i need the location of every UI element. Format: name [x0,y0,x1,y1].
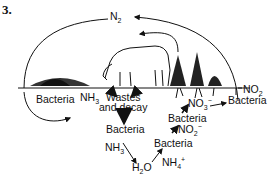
arrow-no3-to-bacteria [210,103,226,106]
label-bacteria-right: Bacteria [228,95,267,106]
arrow-bacteria-to-h2o [123,143,136,163]
label-h2o: H2O [132,162,152,173]
label-nh4: NH4+ [162,157,185,168]
arrow-tree-to-cow [140,33,178,52]
arrow-left-arc [24,19,108,88]
trees-icon [170,52,222,86]
label-bacteria-center: Bacteria [106,124,145,135]
label-bacteria-lower: Bacteria [154,138,193,149]
cow-icon [103,46,170,86]
label-bacteria-upper: Bacteria [168,113,207,124]
label-n2: N2 [110,11,122,22]
label-no3: NO3− [188,98,212,109]
label-nh3-mid: NH3 [105,142,124,153]
nitrogen-cycle-diagram [0,0,273,175]
label-nh3-top: NH3 [80,92,99,103]
label-decay: and decay [99,102,147,113]
arrow-nh4-to-bacteria [152,149,162,162]
label-no2-mid: NO2− [178,124,202,135]
label-bacteria-left: Bacteria [36,94,75,105]
